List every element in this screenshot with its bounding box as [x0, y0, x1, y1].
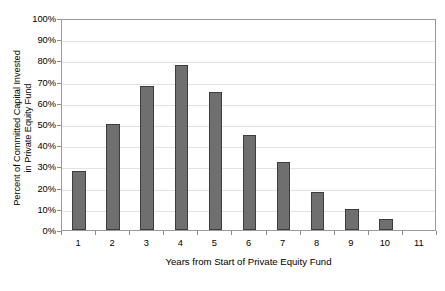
plot-area	[61, 19, 436, 231]
x-axis-tick-label: 11	[399, 238, 439, 249]
y-axis-tick-label: 30%	[23, 163, 56, 172]
x-axis-tick	[197, 231, 198, 235]
bar-chart: Percent of Committed Capital Invested in…	[0, 0, 445, 291]
x-axis-tick	[231, 231, 232, 235]
x-axis-tick-labels: 1234567891011	[61, 238, 436, 252]
bar	[345, 209, 359, 230]
y-axis-tick-label: 0%	[23, 227, 56, 236]
bar	[106, 124, 120, 230]
bar	[175, 65, 189, 230]
x-axis-tick	[436, 231, 437, 235]
x-axis-tick	[266, 231, 267, 235]
y-axis-tick-label: 90%	[23, 36, 56, 45]
bar	[140, 86, 154, 230]
y-axis-tick-labels: 0%10%20%30%40%50%60%70%80%90%100%	[23, 19, 56, 231]
x-axis-tick	[402, 231, 403, 235]
x-axis-title: Years from Start of Private Equity Fund	[61, 256, 436, 268]
y-axis-tick-label: 40%	[23, 142, 56, 151]
x-axis-tick	[129, 231, 130, 235]
x-axis-tick	[95, 231, 96, 235]
y-axis-tick-label: 80%	[23, 57, 56, 66]
bar	[209, 92, 223, 230]
y-axis-tick-label: 70%	[23, 78, 56, 87]
y-axis-tick-label: 20%	[23, 184, 56, 193]
x-axis-tick	[368, 231, 369, 235]
bar	[379, 219, 393, 230]
bar	[277, 162, 291, 230]
y-axis-tick-label: 50%	[23, 121, 56, 130]
bar-series	[62, 20, 435, 230]
y-axis-tick-label: 100%	[23, 15, 56, 24]
x-axis-ticks	[61, 231, 436, 236]
bar	[311, 192, 325, 230]
bar	[72, 171, 86, 230]
y-axis-title-line-1: Percent of Committed Capital Invested	[12, 50, 24, 205]
y-axis-tick-label: 10%	[23, 205, 56, 214]
bar	[243, 135, 257, 230]
x-axis-tick	[61, 231, 62, 235]
y-axis-tick-label: 60%	[23, 99, 56, 108]
x-axis-tick	[163, 231, 164, 235]
x-axis-tick	[334, 231, 335, 235]
x-axis-tick	[300, 231, 301, 235]
